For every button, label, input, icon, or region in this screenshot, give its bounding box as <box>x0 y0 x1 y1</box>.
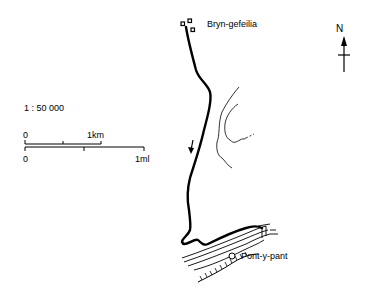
direction-arrow-icon <box>188 140 194 154</box>
contour-line <box>217 87 239 168</box>
north-arrow-icon <box>338 36 350 72</box>
scale-mile-end: 1ml <box>135 154 150 164</box>
scale-bar-mile <box>25 147 144 151</box>
scale-ratio: 1 : 50 000 <box>24 103 64 113</box>
north-label: N <box>336 23 343 34</box>
place-label-pont-y-pant: Pont-y-pant <box>241 251 288 261</box>
station-icon <box>229 253 235 259</box>
scale-km-start: 0 <box>23 130 28 140</box>
scale-km-end: 1km <box>87 130 104 140</box>
scale-mile-start: 0 <box>23 154 28 164</box>
building-icons <box>181 19 195 32</box>
map-canvas <box>0 0 368 298</box>
contour-dashed <box>246 134 254 138</box>
scale-bar-km <box>25 140 101 144</box>
bridge-icon <box>258 224 278 238</box>
place-label-bryn-gefeilia: Bryn-gefeilia <box>207 19 257 29</box>
contour-line <box>225 104 246 142</box>
